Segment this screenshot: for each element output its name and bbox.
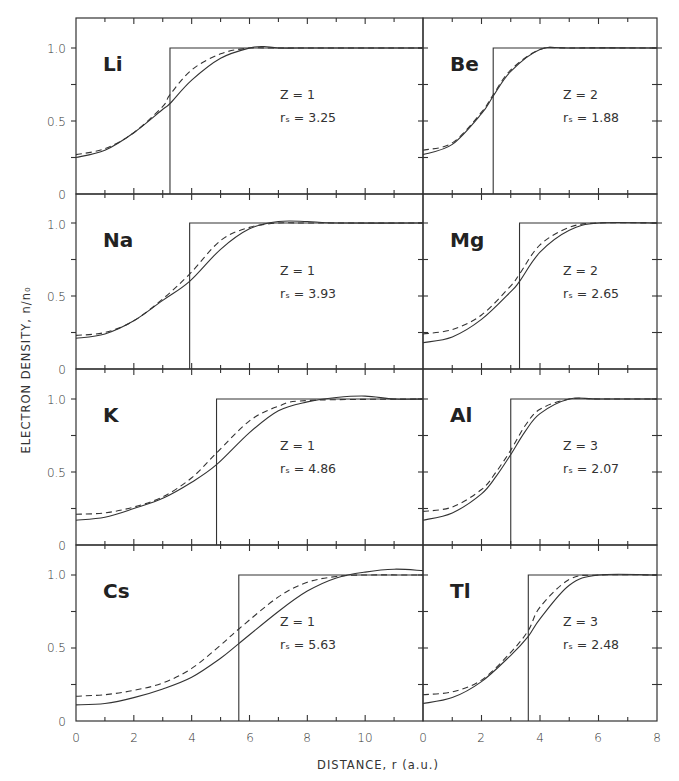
- panel-frame: [423, 369, 657, 545]
- panel-li: LiZ = 1rₛ = 3.25: [71, 18, 423, 194]
- z-label: Z = 2: [563, 87, 598, 102]
- rs-label: rₛ = 2.48: [563, 637, 619, 652]
- y-tick-1-row3: 1.0: [47, 393, 66, 407]
- y-tick-05-row1: 0.5: [47, 115, 66, 129]
- x-axis-label: DISTANCE, r (a.u.): [317, 758, 439, 772]
- panel-frame: [76, 194, 423, 369]
- rs-label: rₛ = 3.93: [280, 286, 336, 301]
- x-tick-right-6: 6: [594, 731, 602, 745]
- y-tick-05-row4: 0.5: [47, 641, 66, 655]
- dashed-density-curve: [76, 399, 423, 514]
- x-tick-left-6: 6: [246, 731, 254, 745]
- y-tick-0-row4: 0: [58, 715, 66, 729]
- rs-label: rₛ = 1.88: [563, 110, 619, 125]
- panel-al: AlZ = 3rₛ = 2.07: [423, 369, 662, 545]
- z-label: Z = 3: [563, 614, 598, 629]
- y-tick-05-row3: 0.5: [47, 466, 66, 480]
- y-tick-1-row1: 1.0: [47, 42, 66, 56]
- panel-mg: MgZ = 2rₛ = 2.65: [423, 194, 662, 369]
- panel-frame: [76, 369, 423, 545]
- x-tick-right-4: 4: [536, 731, 544, 745]
- panel-be: BeZ = 2rₛ = 1.88: [423, 18, 662, 194]
- x-tick-right-2: 2: [477, 731, 485, 745]
- panel-k: KZ = 1rₛ = 4.86: [71, 369, 423, 545]
- x-tick-left-2: 2: [130, 731, 138, 745]
- element-label: Mg: [450, 228, 484, 252]
- x-tick-right-0: 0: [419, 731, 427, 745]
- rs-label: rₛ = 3.25: [280, 110, 336, 125]
- z-label: Z = 1: [280, 614, 315, 629]
- solid-density-curve: [76, 396, 423, 520]
- y-tick-0-row1: 0: [58, 188, 66, 202]
- panel-frame: [76, 18, 423, 194]
- x-tick-labels: 0 2 4 6 8 10 0 2 4 6 8: [72, 731, 661, 745]
- element-label: Tl: [450, 579, 471, 603]
- x-tick-left-0: 0: [72, 731, 80, 745]
- y-tick-05-row2: 0.5: [47, 290, 66, 304]
- rs-label: rₛ = 5.63: [280, 637, 336, 652]
- panels: LiZ = 1rₛ = 3.25BeZ = 2rₛ = 1.88NaZ = 1r…: [71, 18, 662, 721]
- element-label: Cs: [103, 579, 130, 603]
- y-tick-0-row2: 0: [58, 363, 66, 377]
- panel-frame: [423, 194, 657, 369]
- element-label: Al: [450, 403, 472, 427]
- z-label: Z = 1: [280, 87, 315, 102]
- electron-density-figure: LiZ = 1rₛ = 3.25BeZ = 2rₛ = 1.88NaZ = 1r…: [0, 0, 679, 781]
- panel-cs: CsZ = 1rₛ = 5.63: [71, 545, 423, 721]
- y-axis-label: ELECTRON DENSITY, n/n₀: [19, 286, 33, 453]
- z-label: Z = 2: [563, 263, 598, 278]
- element-label: K: [103, 403, 120, 427]
- panel-frame: [423, 545, 657, 721]
- x-tick-right-8: 8: [653, 731, 661, 745]
- panel-frame: [423, 18, 657, 194]
- y-tick-labels: 1.0 0.5 0 1.0 0.5 0 1.0 0.5 0 1.0 0.5 0: [47, 42, 66, 729]
- rs-label: rₛ = 4.86: [280, 461, 336, 476]
- element-label: Li: [103, 52, 123, 76]
- panel-tl: TlZ = 3rₛ = 2.48: [423, 545, 662, 721]
- z-label: Z = 3: [563, 438, 598, 453]
- panel-na: NaZ = 1rₛ = 3.93: [71, 194, 423, 369]
- y-tick-1-row2: 1.0: [47, 218, 66, 232]
- solid-density-curve: [76, 46, 423, 157]
- rs-label: rₛ = 2.07: [563, 461, 619, 476]
- x-tick-left-10: 10: [357, 731, 372, 745]
- dashed-density-curve: [76, 48, 423, 155]
- x-tick-left-8: 8: [303, 731, 311, 745]
- element-label: Be: [450, 52, 479, 76]
- y-tick-0-row3: 0: [58, 539, 66, 553]
- z-label: Z = 1: [280, 263, 315, 278]
- y-tick-1-row4: 1.0: [47, 568, 66, 582]
- z-label: Z = 1: [280, 438, 315, 453]
- rs-label: rₛ = 2.65: [563, 286, 619, 301]
- x-tick-left-4: 4: [188, 731, 196, 745]
- element-label: Na: [103, 228, 133, 252]
